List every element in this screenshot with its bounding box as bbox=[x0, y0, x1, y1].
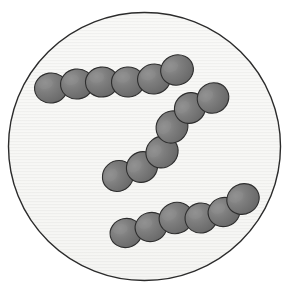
micrograph-figure: Streptococcus chains (cocci in chains) bbox=[0, 0, 289, 291]
micrograph-canvas: Chain 1 — upper horizontal chainChain 2 … bbox=[0, 0, 289, 291]
